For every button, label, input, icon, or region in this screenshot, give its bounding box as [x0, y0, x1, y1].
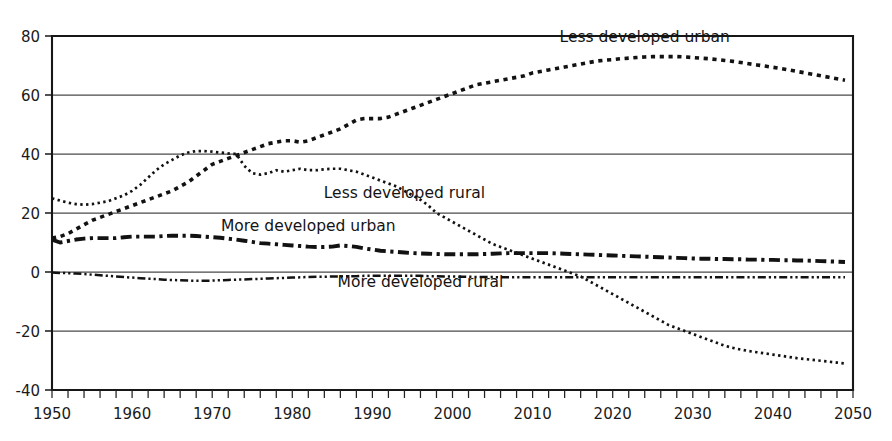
- x-axis-label-1960: 1960: [113, 405, 151, 423]
- y-axis-label-80: 80: [21, 28, 40, 46]
- x-axis-label-1970: 1970: [193, 405, 231, 423]
- x-axis-label-2020: 2020: [594, 405, 632, 423]
- x-axis-label-2040: 2040: [754, 405, 792, 423]
- y-axis-label-0: 0: [30, 264, 40, 282]
- series-annotation-less-developed-urban: Less developed urban: [560, 28, 730, 46]
- series-annotation-more-developed-urban: More developed urban: [221, 217, 396, 235]
- population-growth-chart: 1950196019701980199020002010202020302040…: [0, 0, 892, 441]
- x-axis-label-2000: 2000: [433, 405, 471, 423]
- x-axis-label-1980: 1980: [273, 405, 311, 423]
- chart-container: 1950196019701980199020002010202020302040…: [0, 0, 892, 441]
- x-axis-label-1950: 1950: [33, 405, 71, 423]
- x-axis-label-2050: 2050: [834, 405, 872, 423]
- series-annotation-less-developed-rural: Less developed rural: [324, 184, 485, 202]
- x-axis-label-1990: 1990: [353, 405, 391, 423]
- x-axis-label-2030: 2030: [674, 405, 712, 423]
- y-axis-label--40: -40: [16, 382, 41, 400]
- x-axis-label-2010: 2010: [514, 405, 552, 423]
- y-axis-label-60: 60: [21, 87, 40, 105]
- y-axis-label-20: 20: [21, 205, 40, 223]
- y-axis-label--20: -20: [16, 323, 41, 341]
- series-annotation-more-developed-rural: More developed rural: [338, 273, 504, 291]
- y-axis-label-40: 40: [21, 146, 40, 164]
